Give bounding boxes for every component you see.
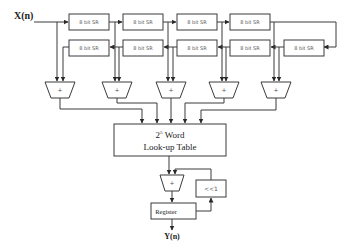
shift-register-top-1: 8 bit SR — [69, 14, 109, 30]
lookup-table: 25 Word Look-up Table — [114, 124, 226, 156]
svg-text:8 bit SR: 8 bit SR — [133, 45, 153, 51]
shift-register-top-4: 8 bit SR — [230, 14, 270, 30]
register: Register — [151, 203, 196, 219]
shift-register-bottom-5: 8 bit SR — [284, 40, 324, 56]
svg-text:+: + — [221, 86, 226, 93]
shift-register-top-3: 8 bit SR — [177, 14, 217, 30]
svg-text:+: + — [57, 86, 62, 93]
adder-1: + — [45, 82, 75, 98]
shift-register-bottom-4: 8 bit SR — [230, 40, 270, 56]
adder-4: + — [209, 82, 239, 98]
svg-text:Look-up Table: Look-up Table — [144, 142, 197, 152]
input-label: X(n) — [14, 10, 33, 22]
shift-register-bottom-3: 8 bit SR — [177, 40, 217, 56]
svg-text:+: + — [169, 179, 174, 186]
svg-text:+: + — [168, 86, 173, 93]
svg-text:+: + — [114, 86, 119, 93]
svg-text:25 Word: 25 Word — [156, 130, 185, 140]
svg-text:8 bit SR: 8 bit SR — [187, 45, 207, 51]
svg-text:+: + — [273, 86, 278, 93]
svg-text:<<1: <<1 — [204, 185, 218, 192]
fir-da-diagram: X(n) 8 bit SR 8 bit SR 8 bit SR 8 bit SR… — [0, 0, 355, 248]
svg-text:8 bit SR: 8 bit SR — [240, 45, 260, 51]
svg-text:8 bit SR: 8 bit SR — [79, 45, 99, 51]
svg-text:8 bit SR: 8 bit SR — [133, 19, 153, 25]
shift-left-block: <<1 — [196, 180, 226, 197]
accumulator-adder: + — [160, 175, 184, 191]
svg-text:8 bit SR: 8 bit SR — [187, 19, 207, 25]
svg-text:8 bit SR: 8 bit SR — [294, 45, 314, 51]
shift-register-bottom-1: 8 bit SR — [69, 40, 109, 56]
adder-5: + — [261, 82, 291, 98]
svg-text:8 bit SR: 8 bit SR — [79, 19, 99, 25]
output-label: Y(n) — [164, 232, 180, 241]
svg-text:8 bit SR: 8 bit SR — [240, 19, 260, 25]
adder-3: + — [156, 82, 186, 98]
shift-register-top-2: 8 bit SR — [123, 14, 163, 30]
shift-register-bottom-2: 8 bit SR — [123, 40, 163, 56]
svg-text:Register: Register — [155, 208, 177, 215]
adder-2: + — [102, 82, 132, 98]
